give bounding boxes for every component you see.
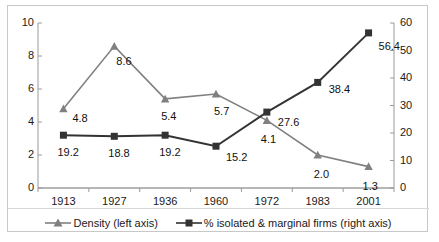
y-axis-right-tick-label: 0 xyxy=(400,182,426,193)
y-axis-left-tick-label: 6 xyxy=(10,83,34,94)
y-axis-right-tick-label: 20 xyxy=(400,127,426,138)
data-point-label: 4.1 xyxy=(261,134,276,145)
data-point-label: 56.4 xyxy=(379,41,400,52)
y-axis-left-tick-label: 10 xyxy=(10,17,34,28)
y-axis-right-tick-label: 10 xyxy=(400,155,426,166)
legend-marker-square-icon xyxy=(176,217,202,229)
x-axis-tick-label: 1983 xyxy=(296,196,340,207)
data-point-label: 2.0 xyxy=(314,169,329,180)
x-axis-tick-label: 1972 xyxy=(245,196,289,207)
data-point-label: 19.2 xyxy=(159,147,180,158)
data-point-label: 15.2 xyxy=(226,152,247,163)
data-point-label: 4.8 xyxy=(72,113,87,124)
chart-legend: Density (left axis) % isolated & margina… xyxy=(8,212,429,234)
y-axis-left-tick-label: 4 xyxy=(10,116,34,127)
x-axis-tick-label: 1936 xyxy=(143,196,187,207)
data-point-label: 18.8 xyxy=(108,148,129,159)
data-point-label: 5.4 xyxy=(161,111,176,122)
data-point-label: 5.7 xyxy=(214,106,229,117)
data-point-label: 38.4 xyxy=(329,84,350,95)
x-axis-tick-label: 1927 xyxy=(92,196,136,207)
legend-item-isolated-firms[interactable]: % isolated & marginal firms (right axis) xyxy=(176,217,392,229)
legend-marker-triangle-icon xyxy=(45,217,71,229)
x-axis-tick-label: 1913 xyxy=(41,196,85,207)
legend-label-density: Density (left axis) xyxy=(73,218,157,229)
data-point-label: 27.6 xyxy=(278,117,299,128)
y-axis-left-tick-label: 0 xyxy=(10,182,34,193)
x-axis-tick-label: 1960 xyxy=(194,196,238,207)
y-axis-left-tick-label: 8 xyxy=(10,50,34,61)
data-point-label: 1.3 xyxy=(363,181,378,192)
chart-series-layer xyxy=(59,29,373,170)
legend-label-isolated-firms: % isolated & marginal firms (right axis) xyxy=(204,218,392,229)
x-axis-tick-label: 2001 xyxy=(347,196,391,207)
data-point-label: 8.6 xyxy=(116,56,131,67)
y-axis-right-tick-label: 60 xyxy=(400,17,426,28)
legend-separator xyxy=(8,208,429,209)
y-axis-right-tick-label: 50 xyxy=(400,45,426,56)
chart-frame: 0246810010203040506019131927193619601972… xyxy=(7,5,428,232)
legend-item-density[interactable]: Density (left axis) xyxy=(45,217,157,229)
y-axis-left-tick-label: 2 xyxy=(10,149,34,160)
y-axis-right-tick-label: 30 xyxy=(400,100,426,111)
data-point-label: 19.2 xyxy=(57,147,78,158)
y-axis-right-tick-label: 40 xyxy=(400,72,426,83)
